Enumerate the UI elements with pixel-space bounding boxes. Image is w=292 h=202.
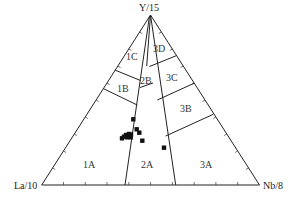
field-boundaries [103,15,213,185]
region-label-1A: 1A [83,159,96,170]
region-label-2A: 2A [141,159,154,170]
sample-point [129,132,133,136]
sample-point [137,131,141,135]
region-label-1B: 1B [117,83,129,94]
region-label-3C: 3C [166,72,178,83]
region-label-1C: 1C [126,51,138,62]
sample-point [131,117,135,121]
sample-point [162,146,166,150]
apex-label-top: Y/15 [139,2,159,13]
region-label-3D: 3D [153,43,165,54]
region-label-3A: 3A [200,159,213,170]
apex-label-left: La/10 [14,180,37,191]
right-side-ticks [159,32,249,170]
sample-point [120,136,124,140]
apex-label-right: Nb/8 [263,180,283,191]
sample-point [140,139,144,143]
ternary-diagram: 1A 1B 1C 2A 2B 3A 3B 3C 3D Y/15 La/10 Nb… [0,0,292,202]
region-label-2B: 2B [140,75,152,86]
region-label-3B: 3B [180,103,192,114]
sample-points [120,117,166,150]
